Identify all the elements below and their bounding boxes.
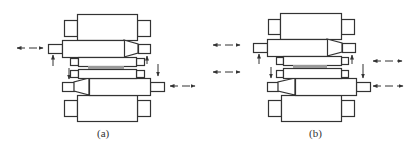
lower-work-chock-left bbox=[277, 71, 284, 78]
bottom-backup-neck-right bbox=[342, 101, 355, 117]
top-backup-neck-right bbox=[138, 21, 151, 37]
upper-intermediate-neck-right bbox=[343, 44, 356, 53]
upper-intermediate-neck-right bbox=[139, 45, 151, 54]
top-backup-neck-left bbox=[269, 20, 281, 35]
bottom-backup-neck-left bbox=[269, 101, 282, 117]
bottom-backup-neck-right bbox=[138, 101, 151, 117]
lower-intermediate-neck-right bbox=[357, 83, 371, 92]
caption-b: (b) bbox=[309, 127, 322, 139]
bottom-backup-neck-left bbox=[65, 101, 78, 117]
upper-intermediate-roll bbox=[63, 41, 125, 58]
rolling-mill-diagram bbox=[0, 0, 419, 151]
bottom-backup-roll bbox=[282, 96, 342, 122]
lower-work-chock-right bbox=[342, 71, 349, 78]
strip bbox=[293, 65, 327, 68]
upper-work-chock-left bbox=[71, 59, 79, 66]
upper-intermediate-neck-left bbox=[49, 45, 63, 54]
upper-work-chock-right bbox=[342, 58, 349, 65]
lower-intermediate-roll bbox=[90, 79, 151, 96]
lower-intermediate-neck-right bbox=[151, 83, 165, 92]
upper-intermediate-roll bbox=[268, 40, 328, 57]
lower-intermediate-neck-left bbox=[63, 83, 75, 92]
lower-intermediate-taper bbox=[278, 78, 295, 95]
top-backup-neck-left bbox=[65, 21, 78, 37]
lower-intermediate-taper bbox=[74, 78, 89, 95]
top-backup-roll bbox=[281, 14, 342, 40]
top-backup-neck-right bbox=[342, 20, 355, 35]
caption-a: (a) bbox=[97, 127, 109, 139]
lower-work-chock-right bbox=[137, 71, 145, 78]
upper-work-chock-left bbox=[277, 58, 284, 65]
bottom-backup-roll bbox=[78, 96, 138, 122]
top-backup-roll bbox=[78, 15, 138, 41]
upper-intermediate-taper bbox=[327, 39, 342, 56]
lower-intermediate-roll bbox=[296, 79, 357, 96]
panel-b-diagram bbox=[213, 14, 403, 122]
upper-work-roll bbox=[79, 58, 137, 67]
upper-work-chock-right bbox=[137, 59, 145, 66]
upper-intermediate-neck-left bbox=[254, 44, 268, 53]
lower-work-chock-left bbox=[71, 71, 79, 78]
lower-work-roll bbox=[284, 69, 342, 79]
upper-work-roll bbox=[284, 57, 342, 66]
upper-intermediate-taper bbox=[124, 40, 138, 57]
lower-intermediate-neck-left bbox=[268, 83, 279, 92]
panel-a-diagram bbox=[17, 15, 195, 122]
lower-work-roll bbox=[79, 70, 137, 79]
strip bbox=[88, 66, 124, 69]
